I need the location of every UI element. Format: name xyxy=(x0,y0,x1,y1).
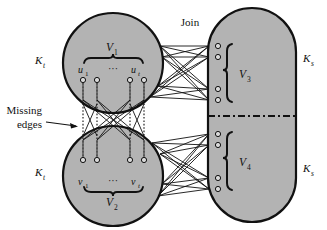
vertex-u2 xyxy=(94,77,99,82)
svg-text:K: K xyxy=(302,162,311,174)
clique-label-ks-bottom: K s xyxy=(302,162,314,178)
vertex-v2 xyxy=(94,157,99,162)
vertex-ut xyxy=(141,77,146,82)
svg-text:v: v xyxy=(131,176,136,187)
svg-text:v: v xyxy=(78,176,83,187)
clique-label-ks-top: K s xyxy=(302,52,314,68)
svg-text:1: 1 xyxy=(114,48,118,57)
vertex-v4-4 xyxy=(215,186,220,191)
svg-text:u: u xyxy=(78,64,83,75)
clique-label-kt-top: K t xyxy=(34,54,46,70)
svg-text:K: K xyxy=(34,166,43,178)
missing-edges-label-line1: Missing xyxy=(7,104,43,116)
svg-text:1: 1 xyxy=(85,70,89,78)
vertex-v3 xyxy=(127,157,132,162)
vertex-v3-2 xyxy=(215,54,220,59)
ellipsis-top: ··· xyxy=(108,63,118,74)
svg-text:K: K xyxy=(34,54,43,66)
vertex-v4-1 xyxy=(215,131,220,136)
join-label: Join xyxy=(181,16,200,28)
vertex-v3-4 xyxy=(215,97,220,102)
missing-edges-label-line2: edges xyxy=(17,118,42,130)
graph-join-diagram: Join Missing edges K t K t K s K s V 1 xyxy=(0,0,327,230)
svg-text:2: 2 xyxy=(114,203,118,212)
svg-text:K: K xyxy=(302,52,311,64)
vertex-v1 xyxy=(80,157,85,162)
svg-text:s: s xyxy=(311,59,314,68)
missing-edges-arrow xyxy=(46,122,78,129)
svg-text:3: 3 xyxy=(247,75,251,84)
svg-text:4: 4 xyxy=(247,163,251,172)
clique-label-kt-bottom: K t xyxy=(34,166,46,182)
vertex-u1 xyxy=(80,77,85,82)
svg-text:s: s xyxy=(311,169,314,178)
vertex-u3 xyxy=(127,77,132,82)
ellipsis-bottom: ··· xyxy=(108,175,118,186)
svg-text:1: 1 xyxy=(85,182,89,190)
vertex-v4-3 xyxy=(215,175,220,180)
svg-text:t: t xyxy=(43,173,46,182)
svg-text:u: u xyxy=(131,64,136,75)
vertex-v3-3 xyxy=(215,86,220,91)
right-stadium-shape xyxy=(208,8,296,222)
svg-text:t: t xyxy=(43,61,46,70)
vertex-v4-2 xyxy=(215,142,220,147)
vertex-v3-1 xyxy=(215,43,220,48)
vertex-vt xyxy=(141,157,146,162)
